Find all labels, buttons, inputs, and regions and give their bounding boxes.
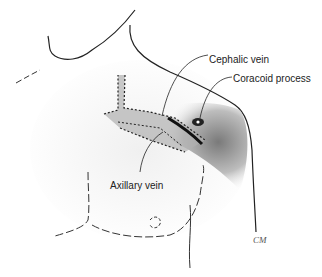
label-axillary-vein: Axillary vein	[110, 180, 163, 191]
body-outline-drawing: CM	[0, 0, 322, 277]
label-cephalic-vein: Cephalic vein	[209, 54, 269, 65]
label-coracoid-process: Coracoid process	[233, 73, 311, 84]
artist-signature: CM	[253, 235, 267, 245]
anatomical-illustration: CM Cephalic vein Coracoid process Axilla…	[0, 0, 322, 277]
